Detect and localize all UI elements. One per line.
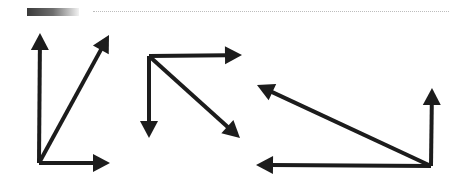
arrowhead-down-icon [140,121,158,138]
arrow-shaft-diagonal-down-right [149,56,229,128]
arrowhead-right-icon [225,46,242,64]
arrow-shaft-up [431,103,432,166]
arrowhead-left-icon [256,156,273,174]
vector-group-3 [256,84,441,174]
vector-diagram [0,0,461,195]
arrow-shaft-diagonal-up-right [39,48,102,163]
arrow-shaft-up [39,48,40,163]
arrowhead-right-icon [93,154,110,172]
arrow-shaft-right [149,55,227,56]
vector-group-2 [140,46,242,138]
arrowhead-up-icon [423,88,441,105]
vector-group-1 [31,33,110,172]
arrow-shaft-left [271,165,431,166]
arrow-shaft-diagonal-up-left [271,91,431,166]
arrowhead-up-icon [31,33,49,50]
